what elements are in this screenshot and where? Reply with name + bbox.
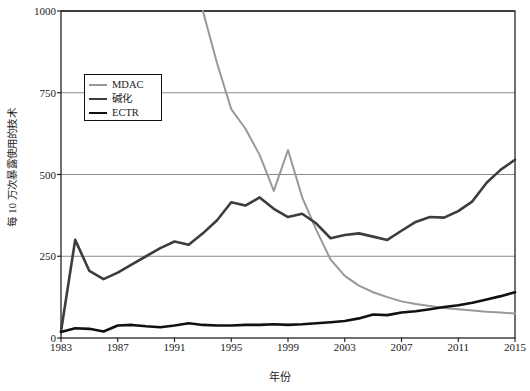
legend-swatch-MDAC (89, 84, 107, 86)
x-axis-title-text: 年份 (269, 371, 291, 383)
x-axis-title: 年份 (0, 368, 530, 384)
legend-label-碱化: 碱化 (112, 92, 132, 106)
legend: MDAC碱化ECTR (84, 74, 162, 121)
legend-label-MDAC: MDAC (112, 78, 144, 92)
legend-item-碱化[interactable]: 碱化 (89, 92, 157, 106)
plot-area (0, 0, 530, 391)
legend-item-ECTR[interactable]: ECTR (89, 106, 157, 120)
line-chart: 每 10 万次暴露使用的技术 02505007501000 1983198719… (0, 0, 530, 391)
legend-swatch-ECTR (89, 112, 107, 114)
legend-swatch-碱化 (89, 98, 107, 100)
legend-label-ECTR: ECTR (112, 106, 139, 120)
legend-item-MDAC[interactable]: MDAC (89, 78, 157, 92)
